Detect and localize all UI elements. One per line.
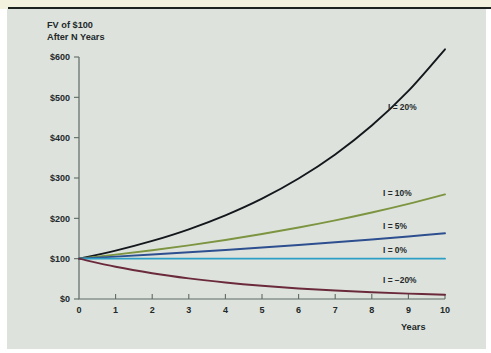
x-tick-label: 2: [150, 305, 155, 315]
x-tick-label: 10: [440, 305, 450, 315]
x-tick-label: 5: [259, 305, 264, 315]
y-tick-label: $600: [50, 52, 70, 62]
series-inline-labels: I = 20%I = 10%I = 5%I = 0%I = −20%: [383, 102, 417, 285]
x-tick-label: 1: [113, 305, 118, 315]
y-axis-tick-labels: $0$100$200$300$400$500$600: [50, 52, 70, 304]
y-tick-label: $0: [60, 294, 70, 304]
axis-lines: [79, 57, 445, 299]
series-label: I = 20%: [388, 102, 417, 112]
x-tick-label: 4: [223, 305, 228, 315]
x-tick-label: 6: [296, 305, 301, 315]
y-tick-label: $200: [50, 214, 70, 224]
series-label: I = 10%: [383, 188, 412, 198]
chart-title-line-1: FV of $100: [47, 20, 93, 30]
line-chart-svg: $0$100$200$300$400$500$600 012345678910 …: [0, 0, 491, 353]
y-tick-label: $100: [50, 254, 70, 264]
series-label: I = −20%: [383, 275, 417, 285]
chart-title-line-2: After N Years: [47, 32, 105, 42]
x-tick-label: 7: [333, 305, 338, 315]
series-label: I = 5%: [383, 221, 408, 231]
y-tick-label: $500: [50, 93, 70, 103]
y-axis-ticks: [74, 57, 79, 299]
y-tick-label: $300: [50, 173, 70, 183]
series-label: I = 0%: [383, 245, 408, 255]
x-axis-label: Years: [401, 322, 426, 332]
screenshot-root: $0$100$200$300$400$500$600 012345678910 …: [0, 0, 491, 353]
y-tick-label: $400: [50, 133, 70, 143]
x-axis-tick-labels: 012345678910: [76, 305, 450, 315]
chart-figure: $0$100$200$300$400$500$600 012345678910 …: [0, 0, 491, 353]
x-tick-label: 0: [76, 305, 81, 315]
x-tick-label: 8: [369, 305, 374, 315]
x-tick-label: 9: [406, 305, 411, 315]
chart-series-curves: [79, 49, 445, 294]
x-axis-ticks: [116, 294, 445, 299]
x-tick-label: 3: [186, 305, 191, 315]
chart-axes: [74, 57, 445, 299]
